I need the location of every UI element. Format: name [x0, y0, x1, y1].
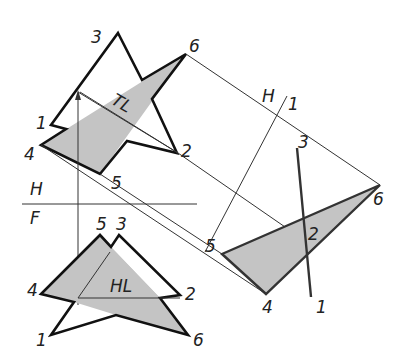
aux-label-2: 2: [308, 224, 319, 244]
hl-label: HL: [110, 276, 132, 296]
front-label-6: 6: [193, 330, 204, 350]
top-label-3: 3: [91, 27, 102, 47]
fold-label-h: H: [30, 179, 43, 199]
front-label-4: 4: [27, 280, 38, 300]
top-label-5: 5: [111, 173, 122, 193]
auxiliary-view: 3 6 2 5 4 1: [205, 132, 384, 317]
top-label-4: 4: [24, 144, 35, 164]
aux-label-4: 4: [262, 297, 273, 317]
top-label-2: 2: [181, 141, 192, 161]
diagram-canvas: TL 3 6 1 4 2 5 H F HL 5 3 4 2 1 6: [0, 0, 411, 360]
front-label-5: 5: [96, 214, 107, 234]
fold-label-1-aux: 1: [288, 94, 299, 114]
front-label-1: 1: [36, 330, 47, 350]
top-label-1: 1: [36, 113, 47, 133]
aux-label-6: 6: [373, 189, 384, 209]
front-label-2: 2: [185, 284, 196, 304]
aux-label-1: 1: [316, 297, 327, 317]
front-view: HL 5 3 4 2 1 6: [27, 214, 204, 350]
fold-label-h-aux: H: [262, 86, 275, 106]
aux-label-5: 5: [205, 236, 216, 256]
aux-label-3: 3: [298, 132, 309, 152]
fold-label-f: F: [30, 208, 40, 228]
front-label-3: 3: [116, 214, 127, 234]
top-label-6: 6: [189, 36, 200, 56]
